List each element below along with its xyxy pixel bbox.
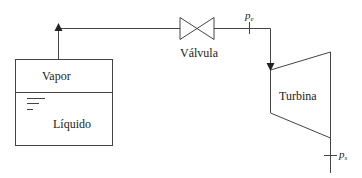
inlet-pressure-subscript: e [251,15,254,23]
arrow-up-icon [55,23,63,31]
valve-label: Válvula [180,47,218,59]
inlet-pressure-label: pe [245,10,254,23]
tank-liquid-label: Líquido [53,118,91,130]
outlet-pressure-subscript: s [345,154,348,162]
tank-vapor-label: Vapor [42,70,71,82]
outlet-pressure-label: ps [339,149,347,162]
liquid-level-icon [27,99,45,110]
valve-icon [180,18,214,40]
arrow-down-icon [267,63,275,71]
turbine-label: Turbina [279,90,317,102]
